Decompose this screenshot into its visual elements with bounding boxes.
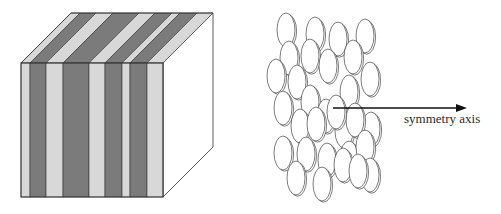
lamellar-block [21,13,213,197]
disk [307,107,327,142]
disk-face [319,49,337,83]
disk-face [287,161,305,195]
disk-face [313,167,331,201]
disk [313,167,333,202]
disk-face [274,91,292,125]
figure-canvas [0,0,501,214]
disk [267,59,287,94]
block-front-stripe [147,63,163,197]
disk [319,49,339,84]
block-front-stripe [105,63,122,197]
disk [287,161,307,196]
disk [344,40,364,75]
disk-face [349,154,367,188]
disk-face [344,40,362,74]
block-front-stripe [46,63,63,197]
disk [274,91,294,126]
block-front-stripe [63,63,89,197]
disk-face [267,59,285,93]
block-front-stripe [89,63,105,197]
disk-face [327,95,345,129]
block-front-stripe [122,63,130,197]
disk [349,154,369,189]
block-front-stripe [21,63,30,197]
disk [361,62,381,97]
disk-face [301,39,319,73]
block-front-stripe [30,63,46,197]
disk-face [361,62,379,96]
disk-face [307,107,325,141]
disk-face [274,136,292,170]
block-front-stripe [130,63,147,197]
symmetry-axis-label: symmetry axis [404,112,480,125]
disk [327,95,347,130]
